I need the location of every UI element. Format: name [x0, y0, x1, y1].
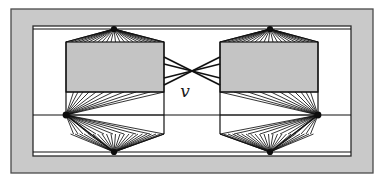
vertex-label-v: v	[180, 81, 190, 101]
right-side-vertex	[315, 112, 322, 119]
figure-root: v	[0, 0, 384, 182]
left-side-vertex	[63, 112, 70, 119]
left-blob	[66, 42, 164, 92]
graph-diagram-svg: v	[0, 0, 384, 182]
left-top-vertex	[111, 26, 117, 32]
left-bottom-vertex	[111, 149, 117, 155]
right-top-vertex	[267, 26, 273, 32]
right-blob	[220, 42, 318, 92]
right-bottom-vertex	[267, 149, 273, 155]
